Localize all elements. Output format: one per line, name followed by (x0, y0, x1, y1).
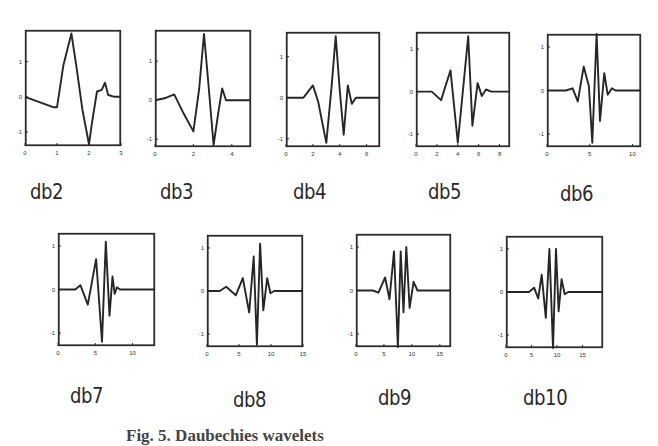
y-tick-label: 0 (201, 288, 205, 294)
y-tick-label: -1 (278, 136, 284, 142)
x-tick-label: 5 (94, 350, 98, 356)
x-tick-label: 5 (382, 351, 386, 357)
wavelet-plot-db10: 051015-101 (506, 236, 603, 348)
y-tick-label: 1 (280, 54, 284, 60)
x-tick-label: 0 (504, 352, 508, 358)
wavelet-curve (547, 34, 641, 143)
x-tick-label: 2 (87, 150, 91, 156)
x-tick-label: 1 (55, 150, 59, 156)
y-tick-label: -1 (199, 331, 205, 337)
y-tick-label: 1 (19, 59, 23, 65)
wavelet-plot-db6: 0510-101 (547, 34, 641, 147)
x-tick-label: 0 (414, 151, 418, 157)
y-tick-label: 0 (149, 97, 153, 103)
x-tick-label: 5 (530, 352, 534, 358)
wavelet-curve (155, 34, 251, 145)
y-tick-label: -1 (539, 131, 545, 137)
x-tick-label: 3 (119, 150, 123, 156)
wavelet-label-db9: db9 (378, 386, 411, 410)
wavelet-plot-db8: 051015-101 (207, 235, 303, 347)
x-tick-label: 0 (153, 151, 157, 157)
x-tick-label: 0 (205, 351, 209, 357)
x-tick-label: 5 (237, 351, 241, 357)
x-tick-label: 10 (554, 352, 561, 358)
x-tick-label: 4 (338, 151, 342, 157)
y-tick-label: 1 (201, 245, 205, 251)
wavelet-plot-db7: 0510-101 (58, 233, 155, 346)
wavelet-curve (286, 36, 380, 143)
wavelet-label-db7: db7 (70, 384, 103, 408)
x-tick-label: 15 (300, 351, 307, 357)
y-tick-label: 0 (280, 95, 284, 101)
y-tick-label: 1 (410, 46, 414, 52)
y-tick-label: 0 (52, 287, 56, 293)
y-tick-label: 1 (541, 44, 545, 50)
wavelet-label-db3: db3 (160, 180, 193, 204)
x-tick-label: 0 (354, 351, 358, 357)
wavelet-label-db6: db6 (560, 182, 593, 206)
wavelet-curve (356, 247, 451, 347)
y-tick-label: 0 (350, 288, 354, 294)
x-tick-label: 0 (23, 150, 27, 156)
wavelet-label-db5: db5 (428, 180, 461, 204)
x-tick-label: 15 (436, 351, 443, 357)
figure-caption: Fig. 5. Daubechies wavelets (126, 426, 324, 446)
x-tick-label: 2 (311, 151, 315, 157)
wavelet-curve (58, 242, 155, 342)
y-tick-label: 0 (500, 289, 504, 295)
x-tick-label: 2 (192, 151, 196, 157)
x-tick-label: 2 (435, 151, 439, 157)
wavelet-label-db2: db2 (30, 180, 63, 204)
wavelet-curve (506, 249, 603, 348)
x-tick-label: 10 (409, 351, 416, 357)
y-tick-label: -1 (408, 131, 414, 137)
x-tick-label: 0 (545, 151, 549, 157)
wavelet-plot-db4: 0246-101 (286, 32, 380, 147)
x-tick-label: 6 (477, 151, 481, 157)
y-tick-label: -1 (348, 331, 354, 337)
y-tick-label: 0 (19, 94, 23, 100)
plot-frame (287, 33, 380, 147)
y-tick-label: 0 (410, 89, 414, 95)
y-tick-label: -1 (498, 332, 504, 338)
x-tick-label: 0 (56, 350, 60, 356)
x-tick-label: 5 (588, 151, 592, 157)
y-tick-label: 0 (541, 88, 545, 94)
x-tick-label: 4 (230, 151, 234, 157)
wavelet-label-db10: db10 (523, 386, 567, 410)
wavelet-curve (416, 36, 510, 142)
x-tick-label: 15 (579, 352, 586, 358)
x-tick-label: 6 (365, 151, 369, 157)
y-tick-label: 1 (500, 246, 504, 252)
y-tick-label: 1 (52, 243, 56, 249)
wavelet-label-db4: db4 (293, 180, 326, 204)
wavelet-plot-db5: 02468-101 (416, 32, 510, 147)
y-tick-label: -1 (147, 136, 153, 142)
y-tick-label: -1 (17, 129, 23, 135)
wavelet-plot-db9: 051015-101 (356, 234, 451, 347)
wavelet-plot-db2: 0123-101 (25, 30, 121, 146)
x-tick-label: 10 (629, 151, 636, 157)
x-tick-label: 0 (284, 151, 288, 157)
y-tick-label: -1 (50, 330, 56, 336)
x-tick-label: 8 (498, 151, 502, 157)
wavelet-label-db8: db8 (233, 388, 266, 412)
wavelet-curve (25, 34, 121, 145)
x-tick-label: 10 (129, 350, 136, 356)
wavelet-curve (207, 244, 303, 345)
wavelet-plot-db3: 024-101 (155, 30, 251, 147)
y-tick-label: 1 (149, 58, 153, 64)
x-tick-label: 10 (268, 351, 275, 357)
x-tick-label: 4 (456, 151, 460, 157)
y-tick-label: 1 (350, 244, 354, 250)
